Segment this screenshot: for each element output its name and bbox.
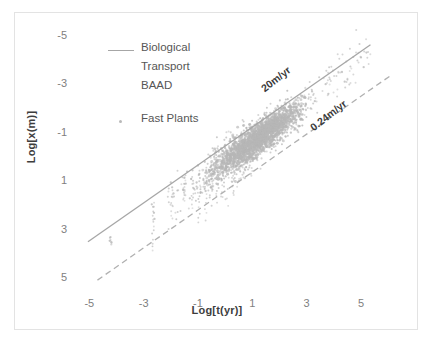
legend-dot-icon bbox=[119, 120, 122, 123]
legend-spacer bbox=[108, 98, 243, 112]
figure-panel: Log[x(m)] Log[t(yr)] 531-1-3-5 -5-3-1135… bbox=[14, 12, 418, 330]
y-tick-label: 3 bbox=[41, 223, 67, 235]
y-tick-label: 5 bbox=[41, 271, 67, 283]
legend-label-line1: Biological bbox=[141, 41, 190, 53]
x-tick-label: 5 bbox=[348, 297, 374, 309]
legend-label-line3: BAAD bbox=[141, 79, 172, 91]
y-tick-label: 1 bbox=[41, 174, 67, 186]
legend-item-biological-transport-cont2: BAAD bbox=[108, 79, 243, 98]
legend-label-fast-plants: Fast Plants bbox=[141, 112, 199, 124]
legend-item-biological-transport: Biological bbox=[108, 41, 243, 60]
y-axis-title: Log[x(m)] bbox=[25, 77, 37, 197]
x-tick-label: 3 bbox=[294, 297, 320, 309]
chart-legend: Biological Transport BAAD Fast Plants bbox=[108, 41, 243, 131]
y-tick-label: -3 bbox=[41, 77, 67, 89]
x-tick-label: -3 bbox=[131, 297, 157, 309]
legend-label-line2: Transport bbox=[141, 60, 190, 72]
x-tick-label: -5 bbox=[76, 297, 102, 309]
legend-item-biological-transport-cont1: Transport bbox=[108, 60, 243, 79]
x-tick-label: 1 bbox=[239, 297, 265, 309]
legend-item-fast-plants: Fast Plants bbox=[108, 112, 243, 131]
y-tick-label: -1 bbox=[41, 126, 67, 138]
legend-line-icon bbox=[108, 50, 134, 51]
y-tick-label: -5 bbox=[41, 29, 67, 41]
x-tick-label: -1 bbox=[185, 297, 211, 309]
